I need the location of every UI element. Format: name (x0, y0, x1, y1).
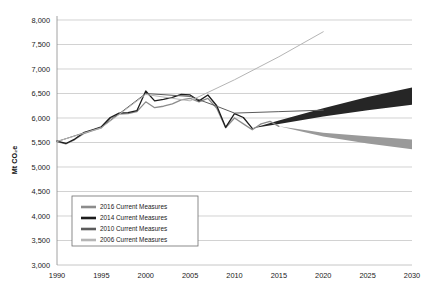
legend-label: 2016 Current Measures (100, 203, 167, 210)
x-tick-label: 2015 (271, 271, 287, 280)
x-tick-label: 2020 (315, 271, 331, 280)
x-tick-label: 2010 (226, 271, 242, 280)
x-tick-label: 2030 (404, 271, 420, 280)
y-tick-label: 3,500 (32, 236, 51, 245)
x-tick-label: 2000 (138, 271, 154, 280)
x-tick-label: 1990 (49, 271, 65, 280)
y-tick-label: 5,500 (32, 138, 51, 147)
legend-label: 2010 Current Measures (100, 225, 167, 232)
y-tick-label: 7,000 (32, 65, 51, 74)
y-tick-label: 4,000 (32, 212, 51, 221)
chart-canvas: 3,0003,5004,0004,5005,0005,5006,0006,500… (0, 0, 427, 291)
x-tick-label: 2025 (359, 271, 375, 280)
legend-label: 2006 Current Measures (100, 236, 167, 243)
y-tick-label: 6,000 (32, 114, 51, 123)
chart-background (0, 0, 427, 291)
y-tick-label: 6,500 (32, 89, 51, 98)
y-axis-title-text: Mt CO₂e (10, 146, 19, 174)
emissions-projection-chart: 3,0003,5004,0004,5005,0005,5006,0006,500… (0, 0, 427, 291)
y-axis-title: Mt CO₂e (10, 146, 19, 174)
x-axis-tick-labels: 199019952000200520102015202020252030 (49, 271, 420, 280)
y-tick-label: 5,000 (32, 163, 51, 172)
y-tick-label: 4,500 (32, 187, 51, 196)
y-tick-label: 3,000 (32, 261, 51, 270)
x-tick-label: 1995 (93, 271, 109, 280)
x-tick-label: 2005 (182, 271, 198, 280)
y-tick-label: 7,500 (32, 40, 51, 49)
legend-label: 2014 Current Measures (100, 214, 167, 221)
chart-legend: 2016 Current Measures2014 Current Measur… (72, 196, 198, 246)
y-tick-label: 8,000 (32, 16, 51, 25)
